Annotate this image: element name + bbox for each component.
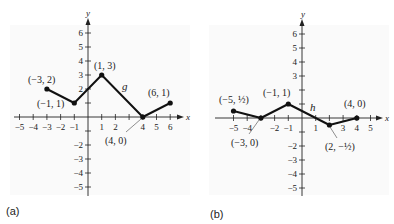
point-label: (−3, 0) [231,137,258,149]
x-tick-label: 5 [154,122,159,132]
x-tick-label: 4 [355,123,360,133]
point-label: (−1, 1) [263,87,290,99]
y-tick-label: −4 [287,169,297,179]
y-tick-label: 5 [293,43,298,53]
y-tick-label: −2 [287,141,297,151]
y-tick-label: −5 [73,182,83,192]
x-tick-label: 4 [141,122,146,132]
figure-a: −5 −4 −3 −2 −1 1 2 4 5 6 6 5 4 3 2 −2 −3… [0,0,197,224]
graph-h: −5 −4 −2 −1 1 3 4 5 6 5 4 3 −2 −3 −4 −5 … [197,0,394,224]
point-label: (4, 0) [344,98,366,110]
x-tick-label: −4 [28,122,38,132]
point-label: (2, −½) [325,141,355,153]
y-axis-arrow-icon [300,19,305,26]
y-axis-arrow-icon [86,18,91,25]
figure-caption: (a) [6,205,19,217]
y-tick-label: −3 [73,154,83,164]
y-tick-label: −3 [287,155,297,165]
graph-g: −5 −4 −3 −2 −1 1 2 4 5 6 6 5 4 3 2 −2 −3… [0,0,197,224]
x-tick-label: 1 [99,122,104,132]
figure-b: −5 −4 −2 −1 1 3 4 5 6 5 4 3 −2 −3 −4 −5 … [197,0,394,224]
figure-caption: (b) [210,208,223,220]
x-tick-label: −1 [284,123,294,133]
plot-background [10,25,190,195]
x-tick-label: −2 [270,123,280,133]
y-tick-label: −4 [73,168,83,178]
y-tick-label: 4 [293,57,298,67]
y-tick-label: 5 [79,42,84,52]
x-tick-label: 1 [313,123,318,133]
point-label: (6, 1) [148,87,170,99]
x-axis-label: x [384,113,389,123]
y-axis-label: y [300,9,305,19]
y-tick-label: 3 [79,70,84,80]
y-tick-label: −2 [73,140,83,150]
y-tick-label: 3 [293,71,298,81]
function-label: h [310,101,316,113]
y-tick-label: −5 [287,183,297,193]
function-label: g [122,80,128,92]
point-label: (1, 3) [94,60,116,72]
point-label: (−3, 2) [28,74,55,86]
x-tick-label: 3 [341,123,346,133]
point-label: (−1, 1) [37,98,64,110]
y-tick-label: 4 [79,56,84,66]
point-label: (−5, ½) [219,94,249,106]
x-tick-label: 6 [168,122,173,132]
x-tick-label: −5 [229,123,239,133]
x-axis-label: x [185,112,190,122]
x-tick-label: 2 [113,122,118,132]
point-label: (4, 0) [105,135,127,147]
x-tick-label: −5 [15,122,25,132]
y-tick-label: 2 [79,84,84,94]
x-tick-label: −2 [56,122,66,132]
x-tick-label: −1 [70,122,80,132]
x-tick-label: −3 [42,122,52,132]
x-tick-label: 5 [368,123,373,133]
y-axis-label: y [85,8,90,18]
y-tick-label: 6 [79,28,84,38]
y-tick-label: 6 [293,29,298,39]
